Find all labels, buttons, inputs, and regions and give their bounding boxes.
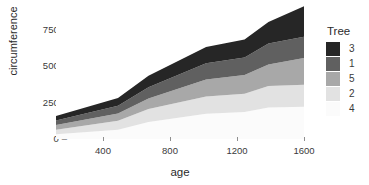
legend-label: 3	[349, 43, 355, 54]
legend-item-2[interactable]: 2	[326, 86, 355, 101]
y-axis-title: circumference	[7, 0, 19, 101]
x-tickmark-400	[103, 137, 104, 141]
stacked-area-plot	[56, 6, 304, 139]
legend-label: 1	[349, 58, 355, 69]
x-tick-1600: 1600	[284, 145, 324, 156]
legend-item-3[interactable]: 3	[326, 41, 355, 56]
legend-swatch-icon	[326, 72, 340, 86]
legend-label: 4	[349, 103, 355, 114]
legend-swatch-icon	[326, 87, 340, 101]
x-tick-800: 800	[150, 145, 190, 156]
legend: Tree 31524	[326, 25, 355, 116]
legend-item-5[interactable]: 5	[326, 71, 355, 86]
legend-items: 31524	[326, 41, 355, 116]
legend-item-4[interactable]: 4	[326, 101, 355, 116]
x-axis-title: age	[56, 166, 304, 178]
chart-figure: circumference 750– 500– 250– 0– 400 800 …	[0, 0, 369, 185]
x-tick-400: 400	[83, 145, 123, 156]
legend-swatch-icon	[326, 57, 340, 71]
legend-title: Tree	[327, 25, 355, 37]
legend-swatch-icon	[326, 102, 340, 116]
legend-item-1[interactable]: 1	[326, 56, 355, 71]
x-tickmark-1200	[237, 137, 238, 141]
legend-label: 5	[349, 73, 355, 84]
legend-label: 2	[349, 88, 355, 99]
plot-panel	[56, 6, 304, 139]
x-tickmark-1600	[304, 137, 305, 141]
x-tickmark-800	[170, 137, 171, 141]
x-tick-1200: 1200	[217, 145, 257, 156]
legend-swatch-icon	[326, 42, 340, 56]
